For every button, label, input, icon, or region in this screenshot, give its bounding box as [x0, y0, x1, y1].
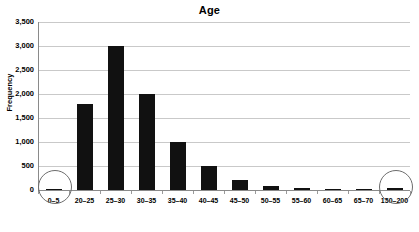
x-axis-tick-label: 35–40 — [162, 196, 193, 205]
bar — [201, 166, 217, 190]
bar-series — [38, 22, 410, 190]
x-axis-tick-label: 20–25 — [69, 196, 100, 205]
bar — [356, 189, 372, 191]
x-axis-tick — [286, 191, 287, 194]
x-axis-tick — [162, 191, 163, 194]
outlier-circle-high — [379, 170, 413, 204]
bar — [325, 189, 341, 191]
x-axis-tick-label: 30–35 — [131, 196, 162, 205]
bar — [294, 188, 310, 190]
x-axis-tick-label: 45–50 — [224, 196, 255, 205]
x-axis-ticks — [38, 191, 410, 195]
x-axis-tick-label: 40–45 — [193, 196, 224, 205]
bar — [263, 186, 279, 190]
bar — [170, 142, 186, 190]
x-axis-tick — [317, 191, 318, 194]
bar — [139, 94, 155, 190]
y-axis-tick-label: 2,000 — [0, 90, 34, 98]
y-axis-tick-label: 0 — [0, 186, 34, 194]
y-axis-tick-label: 1,000 — [0, 138, 34, 146]
outlier-circle-low — [38, 170, 72, 204]
y-axis-tick-label: 3,500 — [0, 18, 34, 26]
x-axis-tick-label: 25–30 — [100, 196, 131, 205]
x-axis-tick-labels: 0–520–2525–3030–3535–4040–4545–5050–5555… — [38, 196, 410, 208]
x-axis-tick — [224, 191, 225, 194]
bar — [77, 104, 93, 190]
x-axis-tick — [193, 191, 194, 194]
chart-title: Age — [0, 4, 419, 16]
x-axis-tick — [131, 191, 132, 194]
bar — [108, 46, 124, 190]
x-axis-tick-label: 50–55 — [255, 196, 286, 205]
x-axis-tick — [348, 191, 349, 194]
y-axis-tick-label: 1,500 — [0, 114, 34, 122]
x-axis-tick-label: 55–60 — [286, 196, 317, 205]
y-axis-tick-label: 500 — [0, 162, 34, 170]
x-axis-tick-label: 60–65 — [317, 196, 348, 205]
x-axis-tick — [100, 191, 101, 194]
y-axis-tick-labels: 05001,0001,5002,0002,5003,0003,500 — [0, 0, 34, 232]
x-axis-tick-label: 65–70 — [348, 196, 379, 205]
y-axis-tick-label: 3,000 — [0, 42, 34, 50]
x-axis-tick — [255, 191, 256, 194]
y-axis-tick-label: 2,500 — [0, 66, 34, 74]
bar — [232, 180, 248, 190]
chart-container: Age Frequency 05001,0001,5002,0002,5003,… — [0, 0, 419, 232]
